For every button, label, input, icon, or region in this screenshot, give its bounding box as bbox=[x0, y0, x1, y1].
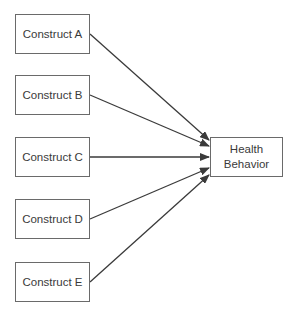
node-construct-c: Construct C bbox=[15, 137, 90, 177]
node-health-behavior: Health Behavior bbox=[210, 137, 283, 177]
node-construct-a: Construct A bbox=[15, 14, 90, 54]
node-label: Construct D bbox=[22, 212, 83, 227]
node-construct-e: Construct E bbox=[15, 262, 90, 302]
arrow-e-to-health-behavior bbox=[90, 175, 209, 282]
arrow-d-to-health-behavior bbox=[90, 168, 209, 219]
node-label-line2: Behavior bbox=[224, 158, 269, 170]
node-label: Health Behavior bbox=[224, 142, 269, 172]
node-label: Construct E bbox=[22, 275, 82, 290]
node-label: Construct C bbox=[22, 150, 83, 165]
arrow-b-to-health-behavior bbox=[90, 95, 209, 146]
node-label-line1: Health bbox=[230, 143, 263, 155]
node-label: Construct B bbox=[22, 88, 82, 103]
node-construct-d: Construct D bbox=[15, 199, 90, 239]
node-label: Construct A bbox=[23, 27, 82, 42]
node-construct-b: Construct B bbox=[15, 75, 90, 115]
arrow-a-to-health-behavior bbox=[90, 34, 209, 140]
